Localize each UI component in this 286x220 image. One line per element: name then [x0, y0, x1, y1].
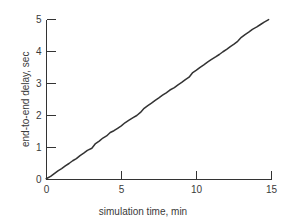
- x-tick-label: 15: [266, 185, 277, 195]
- x-axis-label: simulation time, min: [0, 206, 286, 217]
- data-line-1: [46, 20, 268, 179]
- y-axis-label: end-to-end delay, sec: [20, 52, 31, 147]
- chart-figure: 012345051015 end-to-end delay, sec simul…: [0, 0, 286, 220]
- y-tick-label: 2: [36, 111, 42, 121]
- y-tick-label: 3: [36, 79, 42, 89]
- x-tick-label: 5: [119, 185, 125, 195]
- data-series-group: [46, 20, 268, 179]
- y-tick-label: 0: [36, 175, 42, 185]
- x-tick-label: 10: [191, 185, 202, 195]
- y-tick-label: 1: [36, 143, 42, 153]
- y-tick-label: 5: [36, 15, 42, 25]
- x-tick-label: 0: [44, 185, 50, 195]
- y-tick-label: 4: [36, 47, 42, 57]
